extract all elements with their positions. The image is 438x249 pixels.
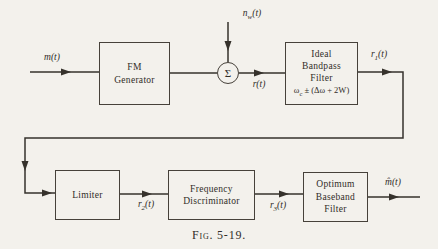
discriminator-label-line1: Frequency [190, 183, 233, 196]
bandpass-label-line3: Filter [310, 72, 332, 84]
baseband-label-line2: Baseband [316, 191, 355, 204]
received-signal-label: r(t) [239, 79, 279, 89]
baseband-label-line1: Optimum [316, 178, 355, 191]
ideal-bandpass-filter-block: Ideal Bandpass Filter ωc ± (Δω + 2W) [285, 42, 358, 105]
arrowhead-noise-input [225, 41, 232, 51]
r2-signal-label: r2(t) [126, 199, 166, 212]
arrowhead-r3 [279, 191, 289, 198]
r3-signal-label: r3(t) [258, 200, 298, 213]
figure-caption: Fig. 5-19. [154, 228, 284, 243]
bandpass-label-line1: Ideal [311, 48, 332, 60]
arrowhead-r1 [382, 69, 392, 76]
baseband-label-line3: Filter [324, 203, 346, 216]
arrowhead-r2 [142, 191, 152, 198]
arrowhead-limiter-input [42, 190, 52, 197]
fm-generator-label-line1: FM [127, 61, 141, 74]
fm-system-block-diagram: FM Generator Σ Ideal Bandpass Filter ωc … [0, 0, 438, 249]
arrowhead-output [389, 194, 399, 201]
sigma-symbol: Σ [225, 67, 231, 79]
limiter-block: Limiter [55, 170, 120, 220]
arrowhead-down-drop [22, 161, 29, 171]
bandpass-formula: ωc ± (Δω + 2W) [294, 84, 349, 100]
message-signal-label: m(t) [32, 52, 72, 62]
arrowhead-summer-output [254, 70, 264, 77]
fm-generator-block: FM Generator [99, 42, 170, 105]
optimum-baseband-filter-block: Optimum Baseband Filter [303, 172, 368, 222]
limiter-label: Limiter [72, 189, 103, 202]
bandpass-label-line2: Bandpass [302, 60, 341, 72]
r1-signal-label: r1(t) [359, 49, 399, 62]
output-signal-label: m̂(t) [373, 177, 413, 187]
summing-junction: Σ [217, 62, 239, 84]
noise-signal-label: nw(t) [232, 8, 272, 21]
arrowhead-message-input [61, 69, 71, 76]
frequency-discriminator-block: Frequency Discriminator [168, 170, 255, 220]
fm-generator-label-line2: Generator [114, 74, 155, 87]
discriminator-label-line2: Discriminator [183, 195, 240, 208]
